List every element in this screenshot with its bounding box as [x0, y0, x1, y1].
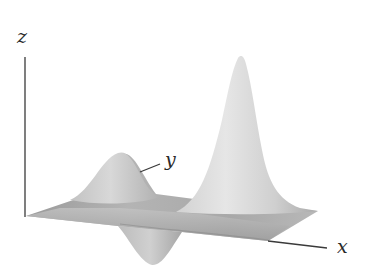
surface-small-hump	[70, 152, 160, 203]
x-axis-label: x	[337, 237, 348, 256]
y-axis-leader-line	[140, 164, 160, 172]
z-axis-label: z	[17, 27, 27, 46]
y-axis-label: y	[165, 150, 176, 169]
surface-dip	[118, 226, 182, 265]
surface-plot-svg	[0, 0, 366, 280]
surface-tall-peak	[176, 56, 318, 214]
surface-plot-figure: z y x	[0, 0, 366, 280]
x-axis-line	[268, 241, 327, 248]
